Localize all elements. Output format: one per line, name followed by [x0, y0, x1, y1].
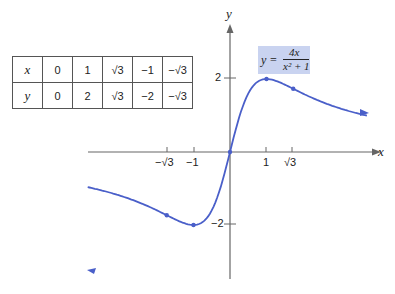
left-arrow-icon: [87, 268, 96, 274]
data-point: [291, 87, 295, 91]
x-axis-label: x: [378, 144, 384, 160]
data-point: [264, 77, 268, 81]
equation-label: y = 4x x² + 1: [258, 46, 310, 74]
plot-area: [0, 0, 395, 294]
formula-lhs: y =: [261, 53, 277, 68]
tick-label-1: 1: [263, 156, 269, 168]
formula-denominator: x² + 1: [283, 60, 310, 72]
y-axis-label: y: [226, 6, 232, 22]
data-point: [165, 213, 169, 217]
data-point: [191, 223, 195, 227]
formula-numerator: 4x: [289, 46, 299, 58]
tick-label-neg1: −1: [186, 156, 199, 168]
data-point: [228, 150, 232, 154]
y-axis-arrow-icon: [227, 24, 234, 33]
tick-label-neg-sqrt3: −√3: [155, 156, 174, 168]
tick-label-sqrt3: √3: [284, 156, 296, 168]
tick-label-yneg2: −2: [211, 217, 224, 229]
tick-label-y2: 2: [215, 71, 221, 83]
